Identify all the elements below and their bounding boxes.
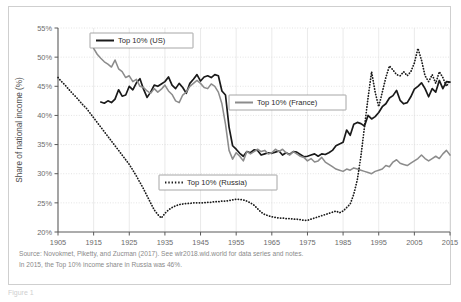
x-tick-label: 1925 [121, 238, 137, 247]
y-tick-label: 20% [37, 228, 52, 237]
y-tick-label: 45% [37, 82, 52, 91]
x-tick-label: 2005 [406, 238, 422, 247]
caption-line-1: Source: Novokmet, Piketty, and Zucman (2… [19, 249, 429, 260]
figure-container: 20%25%30%35%40%45%50%55% 190519151925193… [0, 0, 461, 302]
y-tick-label: 30% [37, 169, 52, 178]
figure-caption: Source: Novokmet, Piketty, and Zucman (2… [19, 249, 429, 270]
legend-item-russia: Top 10% (Russia) [159, 175, 277, 190]
data-series-layer [58, 48, 450, 220]
x-tick-label: 1985 [335, 238, 351, 247]
caption-line-2: In 2015, the Top 10% income share in Rus… [19, 260, 429, 271]
x-tick-label: 1915 [85, 238, 101, 247]
x-tick-label: 1945 [192, 238, 208, 247]
legend-label-france: Top 10% (France) [257, 98, 318, 107]
x-tick-label: 1965 [264, 238, 280, 247]
x-tick-label: 2015 [442, 238, 458, 247]
series-line-russia [58, 48, 450, 220]
y-tick-label: 50% [37, 53, 52, 62]
y-tick-label: 55% [37, 24, 52, 33]
x-axis-ticks: 1905191519251935194519551965197519851995… [50, 232, 458, 247]
legend-label-russia: Top 10% (Russia) [187, 178, 247, 187]
x-tick-label: 1955 [228, 238, 244, 247]
y-axis-title: Share of national income (%) [15, 77, 24, 183]
legend-label-us: Top 10% (US) [118, 36, 166, 45]
y-axis-ticks: 20%25%30%35%40%45%50%55% [37, 24, 58, 237]
series-line-us [101, 75, 450, 157]
legend-item-us: Top 10% (US) [90, 33, 193, 48]
gridlines [58, 28, 450, 232]
x-tick-label: 1995 [371, 238, 387, 247]
x-tick-label: 1905 [50, 238, 66, 247]
y-tick-label: 40% [37, 111, 52, 120]
y-tick-label: 25% [37, 199, 52, 208]
x-tick-label: 1975 [299, 238, 315, 247]
y-tick-label: 35% [37, 140, 52, 149]
x-tick-label: 1935 [157, 238, 173, 247]
legend-item-france: Top 10% (France) [229, 95, 346, 110]
below-frame-label: Figure 1 [8, 289, 448, 301]
